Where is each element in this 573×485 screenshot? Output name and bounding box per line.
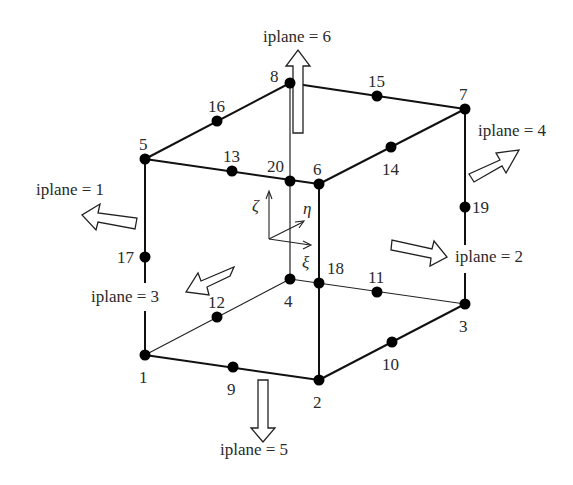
hexahedron-diagram: ζ η ξ 1234567891011121314151617181920 ip… <box>0 0 573 485</box>
node-12 <box>212 312 223 323</box>
node-19 <box>460 202 471 213</box>
node-17 <box>140 252 151 263</box>
arrow-up-right-icon <box>469 150 519 182</box>
eta-axis <box>269 222 303 239</box>
node-11 <box>372 287 383 298</box>
node-label-18: 18 <box>327 259 344 278</box>
plane-labels: iplane = 1iplane = 2iplane = 3iplane = 4… <box>36 27 547 459</box>
node-label-17: 17 <box>117 248 135 267</box>
iplane-label-6: iplane = 6 <box>263 27 331 46</box>
zeta-label: ζ <box>252 196 260 215</box>
node-1 <box>140 350 151 361</box>
hidden-edges <box>145 83 465 355</box>
iplane-label-1: iplane = 1 <box>36 180 104 199</box>
node-label-1: 1 <box>139 368 148 387</box>
node-label-12: 12 <box>208 293 225 312</box>
node-7 <box>460 104 471 115</box>
node-label-3: 3 <box>459 317 468 336</box>
diagram-svg: ζ η ξ 1234567891011121314151617181920 ip… <box>0 0 573 485</box>
node-label-6: 6 <box>313 160 322 179</box>
node-label-15: 15 <box>368 72 385 91</box>
node-18 <box>314 278 325 289</box>
node-10 <box>387 337 398 348</box>
eta-label: η <box>303 199 311 218</box>
node-15 <box>372 91 383 102</box>
node-label-11: 11 <box>368 268 384 287</box>
node-label-4: 4 <box>284 292 293 311</box>
node-label-5: 5 <box>139 135 148 154</box>
visible-edges <box>145 83 465 380</box>
eta-arrowhead-icon <box>295 221 304 228</box>
node-label-9: 9 <box>227 380 236 399</box>
node-4 <box>285 274 296 285</box>
node-label-8: 8 <box>270 67 279 86</box>
node-9 <box>228 362 239 373</box>
arrow-right-icon <box>391 240 447 266</box>
node-label-2: 2 <box>313 393 322 412</box>
node-dots <box>140 78 471 386</box>
node-5 <box>140 154 151 165</box>
arrow-down-icon <box>251 380 275 442</box>
node-label-10: 10 <box>382 355 399 374</box>
iplane-arrows <box>82 50 519 442</box>
iplane-label-5: iplane = 5 <box>220 440 288 459</box>
node-label-20: 20 <box>267 157 284 176</box>
node-label-14: 14 <box>382 160 400 179</box>
iplane-label-4: iplane = 4 <box>478 121 547 140</box>
node-8 <box>285 78 296 89</box>
xi-label: ξ <box>302 253 310 272</box>
node-label-13: 13 <box>223 147 240 166</box>
iplane-label-2: iplane = 2 <box>455 247 523 266</box>
node-3 <box>460 299 471 310</box>
node-13 <box>227 166 238 177</box>
arrow-down-left-icon <box>186 267 234 295</box>
arrow-left-icon <box>82 204 137 230</box>
node-16 <box>212 116 223 127</box>
node-14 <box>386 142 397 153</box>
node-label-16: 16 <box>208 97 225 116</box>
node-label-19: 19 <box>472 198 489 217</box>
node-6 <box>314 179 325 190</box>
iplane-label-3: iplane = 3 <box>91 287 159 306</box>
node-2 <box>314 375 325 386</box>
node-20 <box>285 176 296 187</box>
node-label-7: 7 <box>459 85 468 104</box>
